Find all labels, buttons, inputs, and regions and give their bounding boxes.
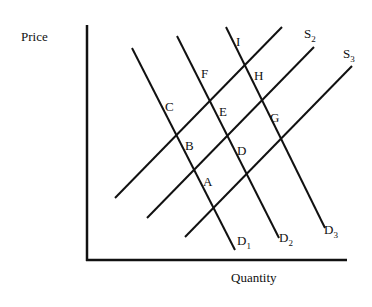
curves-group [115,27,352,250]
demand-curve-label-2: D2 [279,230,293,248]
point-label-e: E [219,104,227,119]
point-label-a: A [203,174,213,189]
point-label-f: F [201,66,208,81]
supply-curve-3 [185,66,352,237]
demand-curve-3 [226,27,325,228]
labels-group: D1D2D3S2S3ABCDEFGHI [165,26,355,251]
point-label-d: D [237,143,246,158]
demand-curve-label-3: D3 [324,222,338,240]
point-label-b: B [185,138,194,153]
point-label-i: I [236,34,240,49]
point-label-c: C [165,99,174,114]
supply-demand-diagram: D1D2D3S2S3ABCDEFGHI [0,0,372,307]
supply-curve-1 [115,27,282,198]
supply-curve-2 [147,47,314,218]
point-label-g: G [270,110,279,125]
x-axis-label: Quantity [231,270,277,286]
point-label-h: H [254,68,263,83]
supply-curve-label-3: S3 [343,46,355,64]
demand-curve-label-1: D1 [237,233,251,251]
y-axis-label: Price [21,29,48,45]
supply-curve-label-2: S2 [304,26,316,44]
demand-curve-2 [177,36,279,238]
demand-curve-1 [132,48,235,250]
